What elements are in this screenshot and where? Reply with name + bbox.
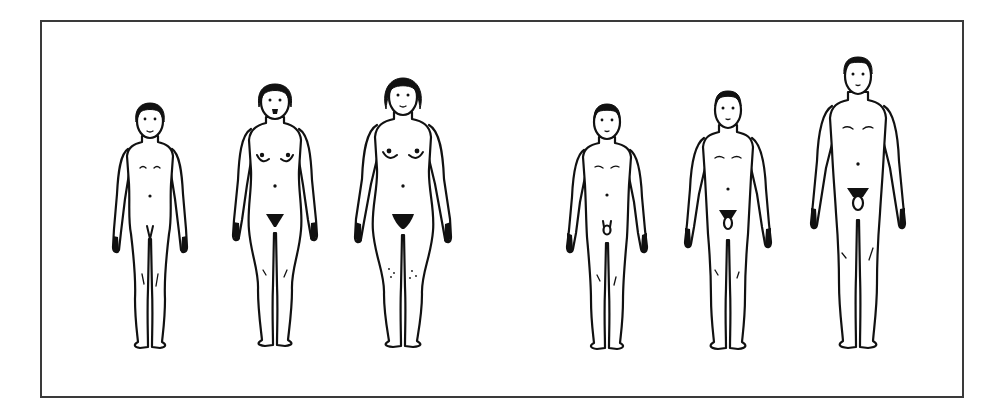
figure-male-adult [811, 57, 905, 348]
figure-female-adult [355, 78, 451, 347]
figure-male-prepubertal [567, 104, 647, 349]
figure-female-prepubertal [113, 103, 187, 348]
figure-male-pubertal [685, 91, 771, 349]
figure-female-pubertal [233, 84, 317, 346]
figures-canvas [0, 0, 990, 420]
